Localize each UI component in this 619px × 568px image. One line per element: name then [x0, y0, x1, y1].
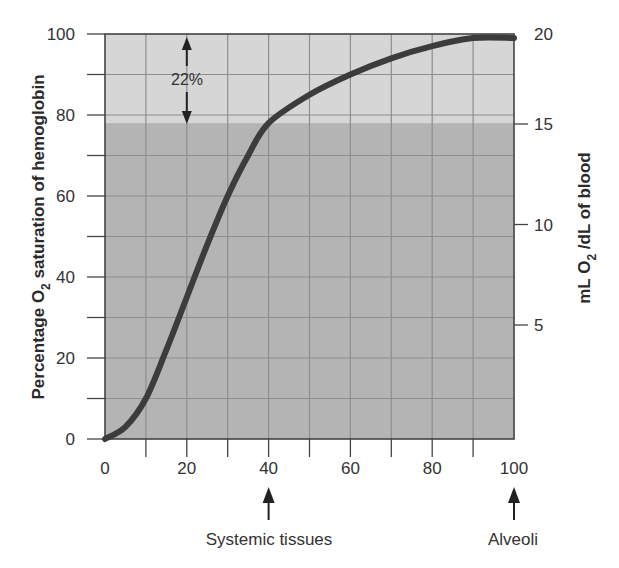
y-tick-label: 40 — [56, 268, 75, 287]
y-tick-label: 80 — [56, 106, 75, 125]
y2-tick-label: 10 — [534, 216, 553, 235]
y-tick-label: 20 — [56, 349, 75, 368]
y-tick-label: 60 — [56, 187, 75, 206]
x-tick-label: 60 — [341, 459, 360, 478]
x-tick-label: 20 — [177, 459, 196, 478]
x-tick-label: 100 — [500, 459, 528, 478]
y2-tick-label: 15 — [534, 115, 553, 134]
y-axis-right-title: mL O2 /dL of blood — [575, 152, 599, 304]
x-tick-label: 0 — [100, 459, 109, 478]
label-alveoli: Alveoli — [488, 530, 538, 549]
y2-tick-label: 5 — [534, 316, 543, 335]
x-tick-label: 80 — [423, 459, 442, 478]
y-axis-left-title: Percentage O2 saturation of hemoglobin — [29, 74, 53, 399]
oxygen-dissociation-chart: 0204060801000204060801005101520 Percenta… — [0, 0, 619, 568]
arrow-alveoli-icon — [508, 487, 520, 503]
x-tick-label: 40 — [259, 459, 278, 478]
y-tick-label: 100 — [47, 25, 75, 44]
y2-tick-label: 20 — [534, 25, 553, 44]
y-tick-label: 0 — [66, 430, 75, 449]
arrow-systemic-icon — [263, 487, 275, 503]
annotation-22-percent: 22% — [171, 71, 203, 88]
label-systemic-tissues: Systemic tissues — [206, 530, 333, 549]
